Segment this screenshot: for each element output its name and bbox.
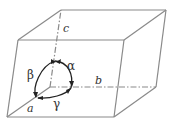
axis-label-a: a [27,102,34,115]
edge-front-left [7,40,18,117]
axis-label-b: b [95,74,102,87]
angle-label-beta: β [27,68,34,82]
axis-label-c: c [63,22,69,35]
angle-label-alpha: α [67,59,75,73]
axis-c [50,10,61,87]
arrowhead-gamma-right [66,88,71,94]
arrowhead-gamma-left [37,96,43,100]
edge-top-right-slant [124,10,166,40]
edge-bottom-right-slant [114,87,156,117]
parallelepiped-figure: c b a β α γ [0,0,173,129]
beta-arc [35,61,55,97]
edge-top-left-slant [18,10,61,40]
edge-back-right [156,10,166,87]
unit-cell-diagram: c b a β α γ [0,0,173,129]
axes [7,10,156,117]
angle-label-gamma: γ [53,97,60,111]
edge-front-right [114,40,124,117]
